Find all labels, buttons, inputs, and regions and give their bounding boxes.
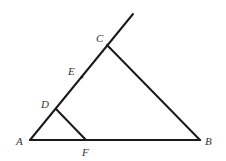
point-e-marker [81, 76, 84, 79]
triangle-diagram: A B C D E F [0, 0, 226, 161]
label-a: A [15, 135, 23, 147]
label-d: D [40, 98, 49, 110]
label-c: C [96, 32, 104, 44]
label-f: F [81, 146, 89, 158]
segment-cb [107, 45, 200, 140]
label-e: E [67, 65, 75, 77]
label-b: B [205, 135, 212, 147]
segment-df [56, 109, 86, 140]
